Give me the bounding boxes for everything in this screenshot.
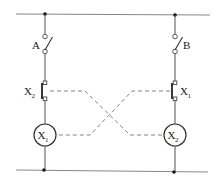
coil-x2-subscript: 2	[175, 136, 179, 144]
switch-b: B	[173, 34, 191, 54]
contact-x2-subscript: 2	[32, 92, 36, 100]
relay-interlock-diagram: A X 2 X 1 B X	[0, 0, 216, 185]
switch-a: A	[32, 34, 53, 54]
contact-x2-left: X 2	[24, 81, 47, 101]
link-contact-x1-to-coil-x1	[56, 91, 170, 135]
coil-x1-subscript: 1	[45, 136, 49, 144]
left-branch: A X 2 X 1	[24, 14, 56, 170]
switch-b-label: B	[183, 39, 190, 51]
contact-x1-subscript: 1	[188, 92, 192, 100]
coil-x2: X 2	[164, 124, 186, 146]
link-contact-x2-to-coil-x2	[50, 91, 164, 135]
switch-a-label: A	[32, 39, 40, 51]
coil-x1: X 1	[34, 124, 56, 146]
contact-x1-right: X 1	[172, 81, 192, 101]
right-branch: B X 1 X 2	[164, 15, 192, 172]
